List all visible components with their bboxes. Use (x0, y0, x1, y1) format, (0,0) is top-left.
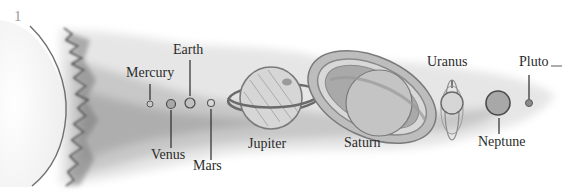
label-mercury: Mercury (126, 66, 174, 80)
label-saturn: Saturn (344, 136, 381, 150)
label-neptune: Neptune (478, 135, 525, 149)
figure-number: 1 (14, 8, 22, 25)
background-wash (60, 30, 555, 185)
label-jupiter: Jupiter (248, 137, 286, 151)
sun (0, 20, 98, 187)
label-uranus: Uranus (427, 55, 467, 69)
solar-system-illustration: 1 Mercury Venus Earth Mars Jupiter Satur… (0, 0, 583, 193)
label-mars: Mars (193, 159, 222, 173)
illustration-canvas (0, 0, 583, 193)
label-venus: Venus (151, 148, 185, 162)
label-pluto: Pluto (519, 55, 549, 69)
label-earth: Earth (173, 43, 203, 57)
